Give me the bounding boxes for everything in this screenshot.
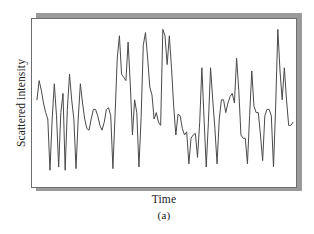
- plot-frame: [31, 18, 297, 188]
- scattered-intensity-trace: [32, 19, 296, 187]
- figure-container: Scattered intensity Time (a): [0, 0, 314, 234]
- x-axis-label: Time: [31, 193, 297, 205]
- figure-caption: (a): [31, 209, 297, 221]
- y-axis-label: Scattered intensity: [12, 18, 30, 188]
